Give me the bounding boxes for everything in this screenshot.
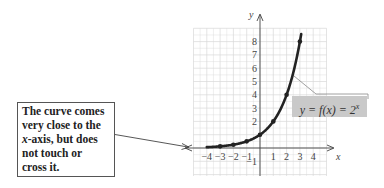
svg-text:2: 2	[252, 116, 257, 127]
note-line-1: The curve comes	[22, 104, 112, 118]
data-point	[244, 139, 249, 144]
data-point	[258, 132, 263, 137]
note-line-2: very close to the	[22, 118, 112, 132]
data-point	[284, 93, 289, 98]
note-line-3: x-axis, but does	[22, 132, 112, 146]
svg-text:4: 4	[311, 151, 316, 162]
data-point	[271, 119, 276, 124]
note-line-5: cross it.	[22, 160, 112, 174]
svg-text:3: 3	[297, 151, 302, 162]
svg-text:5: 5	[252, 76, 257, 87]
note-arrow-line	[112, 134, 188, 147]
data-point	[298, 39, 303, 44]
annotation-note: The curve comes very close to the x-axis…	[17, 102, 115, 177]
function-label: y = f(x) = 2x	[292, 96, 367, 117]
svg-text:4: 4	[252, 89, 257, 100]
svg-text:x: x	[335, 151, 341, 162]
svg-text:3: 3	[252, 103, 257, 114]
data-point	[218, 144, 223, 149]
note-line-4: not touch or	[22, 146, 112, 160]
svg-text:7: 7	[252, 49, 257, 60]
svg-text:8: 8	[252, 36, 257, 47]
svg-text:−2: −2	[228, 151, 239, 162]
svg-text:−3: −3	[215, 151, 226, 162]
svg-text:1: 1	[271, 151, 276, 162]
tick-labels: −4−3−2−112348765432−1xy	[201, 9, 341, 167]
svg-text:−4: −4	[201, 151, 212, 162]
exponential-graph-figure: −4−3−2−112348765432−1xy The curve comes …	[0, 0, 384, 188]
svg-text:y: y	[248, 9, 254, 20]
svg-text:−1: −1	[246, 156, 257, 167]
svg-text:6: 6	[252, 63, 257, 74]
svg-text:2: 2	[284, 151, 289, 162]
data-point	[231, 142, 236, 147]
